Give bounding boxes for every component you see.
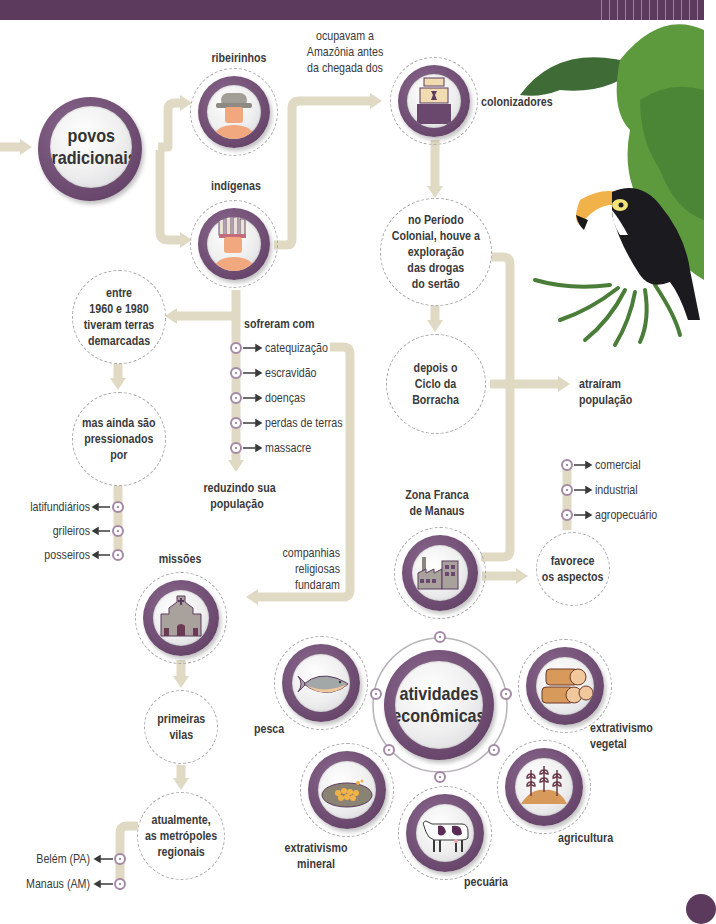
node-terras-demarcadas: entre 1960 e 1980 tiveram terras demarca… (72, 270, 166, 364)
label-colonizadores: colonizadores (481, 94, 553, 110)
list-item-aspecto: comercial (595, 457, 641, 473)
list-item-aspecto: industrial (595, 482, 638, 498)
list-item-pressao: grileiros (16, 523, 90, 539)
atividades-label-line1: atividades (395, 683, 483, 705)
label-extrativismo-mineral: extrativismo mineral (282, 840, 351, 872)
node-primeiras-vilas: primeiras vilas (144, 690, 218, 764)
bullet-icon (370, 688, 382, 700)
bullet-icon (112, 525, 124, 537)
bullet-icon (500, 688, 512, 700)
node-pressionados: mas ainda são pressionados por (72, 392, 166, 486)
node-pesca (274, 636, 368, 730)
bullet-icon (230, 392, 242, 404)
label-ribeirinhos: ribeirinhos (211, 50, 260, 66)
bullet-icon (112, 501, 124, 513)
list-item-aspecto: agropecuário (595, 507, 657, 523)
list-item-metropole: Manaus (AM) (16, 876, 90, 892)
node-atividades-economicas: atividades econômicas (382, 650, 498, 766)
bullet-icon (561, 484, 573, 496)
toucan-illustration (500, 20, 704, 350)
bullet-icon (230, 342, 242, 354)
fish-icon (292, 654, 350, 712)
node-missoes (135, 572, 227, 664)
logs-icon (536, 657, 594, 715)
label-agricultura: agricultura (558, 830, 613, 846)
page-number-badge (686, 894, 716, 924)
node-inner: povos tradicionais (50, 106, 132, 188)
list-item-metropole: Belém (PA) (16, 851, 90, 867)
node-inner: atividades econômicas (395, 661, 483, 749)
node-ribeirinhos (190, 68, 278, 156)
bullet-icon (561, 509, 573, 521)
list-item-sofreram: escravidão (265, 365, 317, 381)
indigenous-person-icon (207, 217, 261, 271)
church-icon (153, 590, 209, 646)
wheat-icon (515, 758, 573, 816)
gold-pan-icon (318, 761, 376, 819)
bullet-icon (114, 853, 126, 865)
label-zona-franca: Zona Franca de Manaus (403, 487, 470, 519)
label-ocupavam: ocupavam a Amazônia antes da chegada dos (304, 28, 386, 76)
bullet-icon (112, 549, 124, 561)
label-missoes: missões (155, 551, 204, 567)
list-item-pressao: latifundiários (16, 499, 90, 515)
label-indigenas: indígenas (209, 178, 263, 194)
label-sofreram-com: sofreram com (244, 316, 315, 332)
bullet-icon (434, 631, 446, 643)
label-reduzindo: reduzindo sua população (203, 480, 270, 512)
label-companhias: companhias religiosas fundaram (266, 545, 340, 593)
node-zona-franca (394, 527, 486, 619)
list-item-pressao: posseiros (16, 547, 90, 563)
riverside-person-icon (207, 85, 261, 139)
node-extrativismo-vegetal (518, 639, 612, 733)
node-pecuaria (398, 786, 492, 880)
povos-label-line2: tradicionais (50, 147, 132, 169)
cow-icon (416, 804, 474, 862)
node-periodo-colonial: no Período Colonial, houve a exploração … (380, 198, 492, 306)
bullet-icon (230, 442, 242, 454)
node-indigenas (190, 200, 278, 288)
bullet-icon (434, 771, 446, 783)
povos-label-line1: povos (50, 125, 132, 147)
bullet-icon (561, 459, 573, 471)
list-item-sofreram: catequização (265, 340, 328, 356)
node-agricultura (497, 740, 591, 834)
label-atrairam: atraíram população (579, 376, 632, 408)
atividades-label-line2: econômicas (395, 705, 483, 727)
list-item-sofreram: perdas de terras (265, 415, 343, 431)
node-favorece-aspectos: favorece os aspectos (536, 532, 610, 606)
list-item-sofreram: massacre (265, 440, 311, 456)
bullet-icon (114, 878, 126, 890)
label-pecuaria: pecuária (460, 874, 512, 890)
node-extrativismo-mineral (300, 743, 394, 837)
node-povos-tradicionais: povos tradicionais (30, 97, 155, 202)
label-pesca: pesca (254, 721, 284, 737)
factory-icon (412, 545, 468, 601)
bullet-icon (230, 417, 242, 429)
bullet-icon (230, 367, 242, 379)
caravel-ship-icon (407, 74, 461, 128)
node-metropoles-regionais: atualmente, as metrópoles regionais (137, 792, 225, 880)
node-ciclo-borracha: depois o Ciclo da Borracha (386, 334, 486, 434)
list-item-sofreram: doenças (265, 390, 305, 406)
node-colonizadores (390, 57, 478, 145)
label-extrativismo-vegetal: extrativismo vegetal (590, 720, 653, 752)
